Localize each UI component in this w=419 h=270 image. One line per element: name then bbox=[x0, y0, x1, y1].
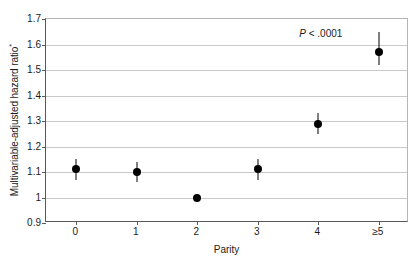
y-axis-tick-mark bbox=[42, 147, 46, 148]
gridline bbox=[46, 45, 407, 46]
x-axis-tick-mark bbox=[258, 221, 259, 225]
y-axis-tick-label: 1.1 bbox=[0, 166, 45, 177]
x-axis-tick-label: 2 bbox=[193, 226, 199, 237]
p-value-annotation: P < .0001 bbox=[299, 28, 342, 39]
p-value-symbol: P bbox=[299, 28, 306, 39]
y-axis-tick-mark bbox=[42, 223, 46, 224]
data-point-marker bbox=[375, 48, 383, 56]
y-axis-tick-label: 1.3 bbox=[0, 115, 45, 126]
gridline bbox=[46, 198, 407, 199]
plot-area bbox=[45, 18, 408, 222]
y-axis-tick-mark bbox=[42, 172, 46, 173]
data-point-marker bbox=[72, 165, 80, 173]
y-axis-tick-label: 1 bbox=[0, 191, 45, 202]
gridline bbox=[46, 121, 407, 122]
x-axis-tick-label: 1 bbox=[133, 226, 139, 237]
y-axis-tick-label: 1.7 bbox=[0, 13, 45, 24]
x-axis-tick-label: 3 bbox=[254, 226, 260, 237]
data-point-marker bbox=[254, 165, 262, 173]
p-value-text: < .0001 bbox=[306, 28, 342, 39]
data-point-marker bbox=[133, 168, 141, 176]
y-axis-tick-label: 1.4 bbox=[0, 89, 45, 100]
data-point-marker bbox=[193, 194, 201, 202]
gridline bbox=[46, 70, 407, 71]
x-axis-tick-label: 4 bbox=[314, 226, 320, 237]
y-axis-tick-label: 1.5 bbox=[0, 64, 45, 75]
data-point-marker bbox=[314, 120, 322, 128]
y-axis-tick-label: 0.9 bbox=[0, 217, 45, 228]
y-axis-tick-mark bbox=[42, 198, 46, 199]
chart-figure: Multivariable-adjusted hazard ratio* 0.9… bbox=[0, 0, 419, 270]
x-axis-title: Parity bbox=[45, 244, 408, 255]
x-axis-tick-label: 0 bbox=[72, 226, 78, 237]
gridline bbox=[46, 172, 407, 173]
x-axis-tick-mark bbox=[137, 221, 138, 225]
y-axis-tick-labels: 0.911.11.21.31.41.51.61.7 bbox=[0, 0, 45, 270]
gridline bbox=[46, 147, 407, 148]
x-axis-tick-mark bbox=[379, 221, 380, 225]
y-axis-tick-mark bbox=[42, 45, 46, 46]
y-axis-tick-mark bbox=[42, 121, 46, 122]
y-axis-tick-label: 1.2 bbox=[0, 140, 45, 151]
x-axis-tick-mark bbox=[76, 221, 77, 225]
gridline bbox=[46, 96, 407, 97]
y-axis-tick-mark bbox=[42, 70, 46, 71]
x-axis-tick-mark bbox=[197, 221, 198, 225]
y-axis-tick-mark bbox=[42, 19, 46, 20]
x-axis-tick-label: ≥5 bbox=[372, 226, 383, 237]
y-axis-tick-mark bbox=[42, 96, 46, 97]
x-axis-tick-mark bbox=[318, 221, 319, 225]
y-axis-tick-label: 1.6 bbox=[0, 38, 45, 49]
